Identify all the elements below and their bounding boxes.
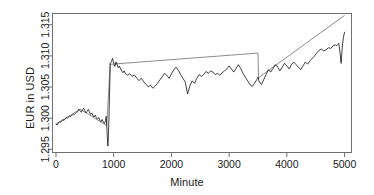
y-tick-label: 1.315 bbox=[39, 11, 51, 37]
y-axis-title: EUR in USD bbox=[24, 28, 36, 168]
trend-segment-5 bbox=[258, 53, 259, 78]
plot-frame bbox=[53, 14, 352, 153]
series-line bbox=[56, 32, 345, 146]
trend-segment-2 bbox=[80, 109, 107, 126]
y-tick-label: 1.300 bbox=[39, 105, 51, 131]
y-tick-label: 1.305 bbox=[39, 74, 51, 100]
x-tick-label: 4000 bbox=[275, 158, 299, 170]
x-tick-label: 3000 bbox=[217, 158, 241, 170]
trend-line-group bbox=[56, 15, 345, 125]
x-tick-label: 2000 bbox=[160, 158, 184, 170]
x-axis-title: Minute bbox=[0, 176, 374, 188]
axis-frame bbox=[53, 14, 352, 153]
chart-figure: 1.2951.3001.3051.3101.315 01000200030004… bbox=[0, 0, 374, 195]
chart-plot-area: 1.2951.3001.3051.3101.315 01000200030004… bbox=[0, 0, 374, 195]
x-axis-ticks: 010002000300040005000 bbox=[53, 153, 356, 170]
trend-segment-4 bbox=[110, 53, 258, 64]
y-tick-label: 1.295 bbox=[39, 136, 51, 162]
y-axis-ticks: 1.2951.3001.3051.3101.315 bbox=[39, 11, 53, 162]
x-tick-label: 5000 bbox=[333, 158, 357, 170]
data-series-group bbox=[56, 32, 345, 146]
y-tick-label: 1.310 bbox=[39, 43, 51, 69]
x-tick-label: 0 bbox=[53, 158, 59, 170]
x-tick-label: 1000 bbox=[102, 158, 126, 170]
